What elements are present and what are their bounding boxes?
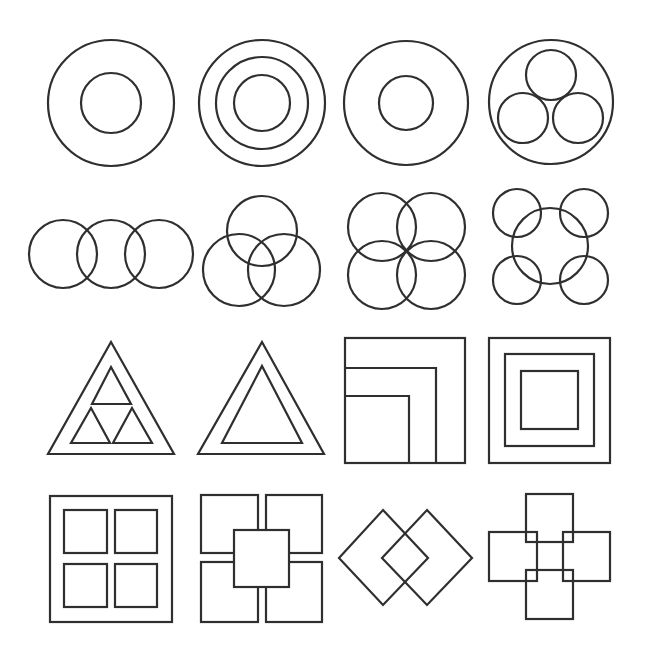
center-square — [234, 530, 289, 587]
shape-four-squares-cross — [489, 494, 610, 619]
circle-outline — [498, 93, 548, 143]
row-square-compositions — [50, 494, 610, 622]
shape-ring-with-small-inner-circle — [344, 41, 468, 165]
row-circles — [48, 40, 613, 166]
polygon-outline — [92, 367, 131, 404]
shape-square-with-corner-nested-squares — [345, 338, 465, 463]
circle-outline — [493, 189, 541, 237]
square-outline — [115, 510, 157, 553]
shape-ring-with-inner-circle — [48, 40, 174, 166]
square-outline — [345, 338, 465, 463]
corner-line — [345, 396, 409, 463]
square-outline — [563, 532, 610, 581]
circle-outline — [48, 40, 174, 166]
corner-line — [345, 368, 436, 463]
square-outline — [115, 564, 157, 607]
polygon-outline — [198, 342, 324, 454]
circle-outline — [216, 57, 308, 149]
circle-outline — [512, 208, 588, 284]
circle-outline — [553, 93, 603, 143]
square-outline — [505, 354, 594, 446]
shape-four-squares-with-center-square — [201, 495, 322, 622]
shape-central-circle-four-corners — [493, 189, 608, 304]
shape-three-concentric-circles — [199, 40, 325, 166]
pattern-figure — [0, 0, 652, 656]
polygon-outline — [71, 408, 110, 443]
row-triangles-and-squares — [48, 338, 610, 463]
shape-three-concentric-squares — [489, 338, 610, 463]
shape-window-four-panes — [50, 496, 172, 622]
square-outline — [521, 371, 578, 429]
circle-outline — [344, 41, 468, 165]
square-outline — [489, 532, 537, 581]
circle-outline — [234, 75, 290, 131]
square-outline — [64, 510, 107, 553]
shape-triangle-with-inner-triangle — [198, 342, 324, 454]
circle-outline — [199, 40, 325, 166]
row-overlapping-circles — [29, 189, 608, 309]
circle-outline — [227, 196, 297, 266]
square-outline — [489, 338, 610, 463]
square-outline — [526, 570, 573, 619]
square-outline — [64, 564, 107, 607]
square-outline — [526, 494, 573, 542]
polygon-outline — [113, 408, 152, 443]
circle-outline — [248, 234, 320, 306]
shape-circle-with-three-inner-circles — [489, 40, 613, 164]
circle-outline — [526, 50, 576, 100]
shape-three-circles-venn — [203, 196, 320, 306]
square-outline — [50, 496, 172, 622]
circle-outline — [81, 73, 141, 133]
circle-outline — [379, 76, 433, 130]
shape-triangle-with-three-inner-triangles — [48, 342, 174, 454]
circle-outline — [125, 220, 193, 288]
shape-four-overlapping-circles — [348, 193, 465, 309]
circle-outline — [397, 241, 465, 309]
circle-outline — [203, 234, 275, 306]
polygon-outline — [222, 366, 302, 443]
circle-outline — [489, 40, 613, 164]
polygon-outline — [48, 342, 174, 454]
shape-three-circles-in-row — [29, 220, 193, 288]
shape-two-overlapping-diamonds — [339, 510, 472, 605]
